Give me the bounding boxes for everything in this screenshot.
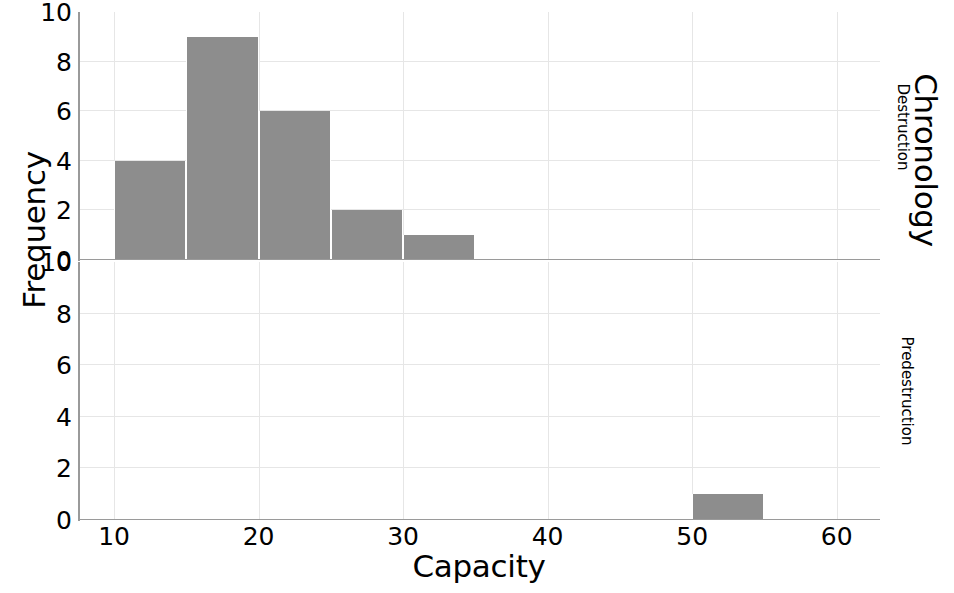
y-tick-label: 4 <box>8 148 72 173</box>
x-tick-label: 30 <box>387 524 419 549</box>
y-tick-label: 6 <box>8 353 72 378</box>
histogram-bar <box>331 210 403 260</box>
plot-panel-destruction <box>78 12 880 260</box>
x-tick-label: 10 <box>98 524 130 549</box>
gridline-vertical <box>114 262 115 520</box>
panel-label-predestruction: Predestruction <box>898 301 916 481</box>
plot-panel-predestruction <box>78 262 880 520</box>
gridline-vertical <box>692 262 693 520</box>
x-tick-label: 40 <box>532 524 564 549</box>
gridline-horizontal <box>78 467 880 468</box>
x-axis-baseline <box>78 259 880 261</box>
y-tick-labels-destruction: 0246810 <box>0 12 72 260</box>
x-axis-title: Capacity <box>78 548 880 584</box>
y-tick-label: 2 <box>8 198 72 223</box>
y-tick-label: 10 <box>8 0 72 25</box>
gridline-horizontal <box>78 416 880 417</box>
y-tick-label: 2 <box>8 456 72 481</box>
x-tick-label: 20 <box>243 524 275 549</box>
gridline-vertical <box>548 262 549 520</box>
histogram-bar <box>403 235 475 260</box>
y-tick-labels-predestruction: 0246810 <box>0 262 72 520</box>
y-tick-label: 8 <box>8 49 72 74</box>
y-axis-spine-top <box>78 12 80 261</box>
gridline-vertical <box>837 262 838 520</box>
histogram-bar <box>259 111 331 260</box>
x-tick-label: 60 <box>821 524 853 549</box>
y-tick-label: 0 <box>8 508 72 533</box>
panel-label-destruction: Destruction <box>894 47 912 207</box>
gridline-horizontal <box>78 313 880 314</box>
y-tick-label: 8 <box>8 301 72 326</box>
gridline-vertical <box>403 262 404 520</box>
histogram-bar <box>692 494 764 520</box>
y-tick-label: 6 <box>8 99 72 124</box>
gridline-horizontal <box>78 364 880 365</box>
y-tick-label: 4 <box>8 404 72 429</box>
gridline-vertical <box>548 12 549 260</box>
histogram-bar <box>114 161 186 260</box>
y-tick-label: 10 <box>8 250 72 275</box>
histogram-bar <box>186 37 258 260</box>
gridline-vertical <box>259 262 260 520</box>
gridline-vertical <box>692 12 693 260</box>
gridline-vertical <box>837 12 838 260</box>
x-tick-label: 50 <box>676 524 708 549</box>
x-axis-baseline <box>78 519 880 521</box>
y-axis-spine-bottom <box>78 262 80 521</box>
gridline-vertical <box>403 12 404 260</box>
right-axis-title: Chronology <box>908 40 944 280</box>
histogram-figure: Frequency Chronology Capacity Destructio… <box>0 0 954 593</box>
